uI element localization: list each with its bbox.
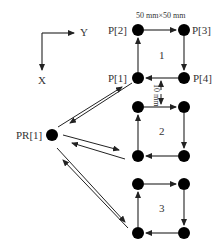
node-p4 — [178, 72, 190, 84]
node-s3-tr — [178, 178, 190, 190]
axis-y-label: Y — [80, 27, 88, 38]
nodes — [46, 24, 190, 239]
square-3-label: 3 — [159, 203, 165, 214]
node-p1 — [132, 72, 144, 84]
label-pr1: PR[1] — [16, 130, 42, 141]
node-p2 — [132, 24, 144, 36]
diagram-canvas — [0, 0, 222, 251]
label-p3: P[3] — [192, 25, 211, 36]
node-p3 — [178, 24, 190, 36]
square-2-label: 2 — [159, 126, 165, 137]
coordinate-axes — [42, 33, 74, 70]
node-s2-bl — [132, 150, 144, 162]
node-pr1 — [46, 129, 58, 141]
pr-transitions — [57, 83, 132, 228]
label-p2: P[2] — [108, 25, 127, 36]
gap-label: 10 mm — [152, 84, 160, 106]
label-p4: P[4] — [193, 73, 212, 84]
node-s3-br — [178, 227, 190, 239]
node-s3-tl — [132, 178, 144, 190]
axis-x-label: X — [38, 75, 46, 86]
node-s2-br — [178, 150, 190, 162]
label-p1: P[1] — [108, 73, 127, 84]
node-s2-tr — [178, 101, 190, 113]
square-1-label: 1 — [159, 50, 165, 61]
node-s3-bl — [132, 227, 144, 239]
node-s2-tl — [132, 101, 144, 113]
dimension-label: 50 mm×50 mm — [136, 12, 185, 20]
